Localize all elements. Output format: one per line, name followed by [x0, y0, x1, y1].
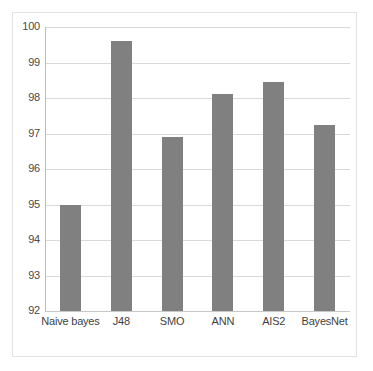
gridline [45, 134, 350, 135]
y-axis-tick-label: 98 [6, 92, 40, 103]
y-axis-tick-label: 97 [6, 128, 40, 139]
x-axis-tick-label: AIS2 [262, 315, 285, 328]
y-axis-line [45, 27, 46, 311]
bar [314, 125, 335, 311]
plot-area [45, 27, 350, 311]
x-axis-tick-label: BayesNet [302, 315, 348, 328]
gridline [45, 63, 350, 64]
bar [212, 94, 233, 311]
y-axis-tick-label: 94 [6, 234, 40, 245]
y-axis-tick-label: 95 [6, 199, 40, 210]
y-axis-tick-labels: 1009998979695949392 [0, 0, 40, 371]
bar [162, 137, 183, 311]
bar-chart: 1009998979695949392 Naive bayesJ48SMOANN… [0, 0, 373, 371]
x-axis-tick-label: SMO [160, 315, 184, 328]
bar [263, 82, 284, 311]
x-axis-tick-label: J48 [113, 315, 130, 328]
y-axis-tick-label: 93 [6, 270, 40, 281]
y-axis-tick-label: 100 [6, 21, 40, 32]
gridline [45, 276, 350, 277]
gridline [45, 240, 350, 241]
x-axis-tick-label: ANN [212, 315, 235, 328]
bar [111, 41, 132, 311]
gridline [45, 169, 350, 170]
y-axis-tick-label: 96 [6, 163, 40, 174]
x-axis-tick-label: Naive bayes [41, 315, 99, 328]
gridline [45, 98, 350, 99]
y-axis-tick-label: 92 [6, 305, 40, 316]
bar [60, 205, 81, 312]
gridline [45, 311, 350, 312]
y-axis-tick-label: 99 [6, 57, 40, 68]
gridline [45, 27, 350, 28]
x-axis-category-labels: Naive bayesJ48SMOANNAIS2BayesNet [45, 315, 350, 345]
gridline [45, 205, 350, 206]
